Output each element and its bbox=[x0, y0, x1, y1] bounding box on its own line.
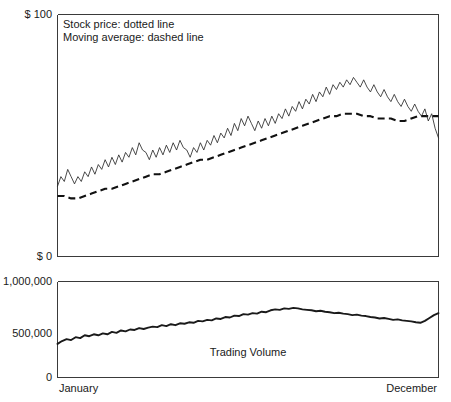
price-axis-top-tick-label: $ 100 bbox=[24, 8, 52, 20]
trading-volume-series-line bbox=[58, 308, 439, 344]
trading-volume-annotation-label: Trading Volume bbox=[210, 346, 287, 358]
x-axis-label-december: December bbox=[386, 382, 437, 394]
stock-chart-figure: $ 100 $ 0 Stock price: dotted line Movin… bbox=[0, 0, 451, 402]
moving-average-series-line bbox=[58, 114, 439, 199]
chart-canvas: $ 100 $ 0 Stock price: dotted line Movin… bbox=[0, 0, 451, 402]
volume-axis-bottom-tick-label: 0 bbox=[46, 371, 52, 383]
x-axis-label-january: January bbox=[59, 382, 99, 394]
legend-moving-average-text: Moving average: dashed line bbox=[63, 31, 204, 43]
stock-price-series-line bbox=[58, 77, 439, 186]
volume-axis-top-tick-label: 1,000,000 bbox=[3, 275, 52, 287]
volume-axis-mid-tick-label: 500,000 bbox=[12, 327, 52, 339]
price-axis-bottom-tick-label: $ 0 bbox=[37, 250, 52, 262]
legend-stock-price-text: Stock price: dotted line bbox=[63, 18, 174, 30]
